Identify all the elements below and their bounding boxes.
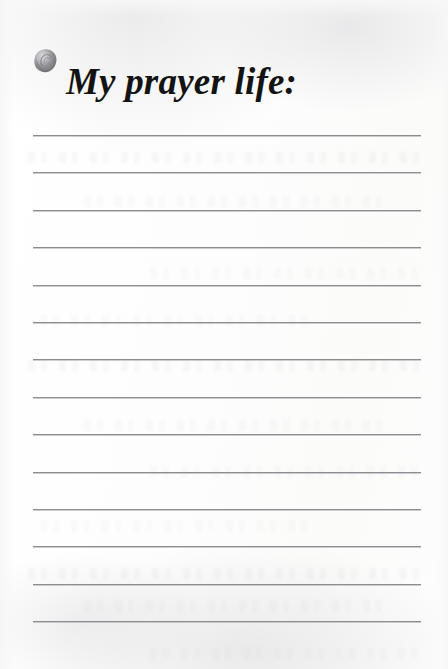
writing-line[interactable]	[33, 434, 421, 435]
writing-line[interactable]	[33, 546, 421, 547]
writing-line[interactable]	[33, 322, 421, 323]
writing-line[interactable]	[33, 247, 421, 248]
writing-line[interactable]	[33, 285, 421, 286]
writing-line[interactable]	[33, 472, 421, 473]
writing-line[interactable]	[33, 359, 421, 360]
writing-line[interactable]	[33, 621, 421, 622]
writing-line[interactable]	[33, 210, 421, 211]
writing-line[interactable]	[33, 584, 421, 585]
writing-line[interactable]	[33, 397, 421, 398]
writing-line[interactable]	[33, 509, 421, 510]
writing-line[interactable]	[33, 172, 421, 173]
writing-lines	[0, 0, 448, 669]
writing-line[interactable]	[33, 135, 421, 136]
journal-page: My prayer life:	[0, 0, 448, 669]
